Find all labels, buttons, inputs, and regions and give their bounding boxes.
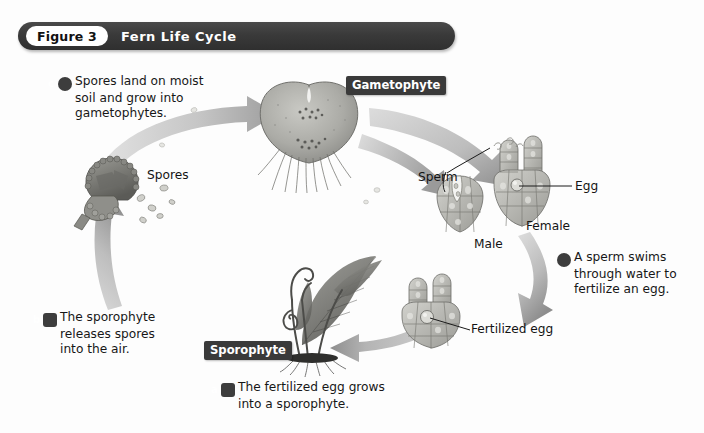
part-label-sperm: Sperm: [418, 170, 458, 184]
part-label-male: Male: [474, 237, 503, 251]
step-marker-b: b: [43, 313, 57, 327]
part-label-fertilized-egg: Fertilized egg: [471, 322, 553, 336]
step-c-line2: soil and grow into: [75, 91, 248, 106]
step-d-line1: A sperm swims: [574, 250, 666, 264]
stage-label-gametophyte: Gametophyte: [346, 76, 446, 95]
step-marker-c: c: [58, 77, 72, 91]
gametophyte-prothallus-icon: [258, 82, 358, 193]
fern-sporophyte-icon: [280, 256, 382, 377]
sporangium-spore-capsule-icon: [74, 156, 139, 230]
step-b-line1: The sporophyte: [60, 310, 155, 324]
step-b-line3: into the air.: [60, 342, 203, 357]
arrow-zygote-to-sporophyte: [330, 329, 420, 362]
step-b-line2: releases spores: [60, 327, 203, 342]
step-d-line3: fertilize an egg.: [574, 282, 702, 297]
part-label-female: Female: [526, 219, 570, 233]
figure-canvas: Figure 3 Fern Life Cycle: [0, 0, 704, 433]
step-c-line1: Spores land on moist: [75, 74, 203, 88]
step-marker-d: d: [557, 253, 571, 267]
female-gametophyte-icon: [494, 136, 550, 227]
arrow-gametes-to-zygote: [518, 232, 553, 327]
spore-dots-icon: [136, 184, 175, 224]
stage-label-sporophyte: Sporophyte: [204, 341, 292, 360]
step-a-line1: The fertilized egg grows: [238, 380, 385, 394]
step-callout-c: cSpores land on moist soil and grow into…: [58, 74, 248, 121]
step-marker-a: a: [221, 383, 235, 397]
part-label-egg: Egg: [575, 179, 598, 193]
step-a-line2: into a sporophyte.: [238, 397, 431, 412]
step-d-line2: through water to: [574, 267, 702, 282]
male-gametophyte-icon: [437, 176, 483, 232]
step-callout-b: bThe sporophyte releases spores into the…: [43, 310, 203, 357]
step-callout-a: aThe fertilized egg grows into a sporoph…: [221, 380, 431, 412]
step-c-line3: gametophytes.: [75, 106, 248, 121]
step-callout-d: dA sperm swims through water to fertiliz…: [557, 250, 702, 297]
life-cycle-artwork: [0, 0, 704, 433]
part-label-spores: Spores: [147, 168, 189, 182]
